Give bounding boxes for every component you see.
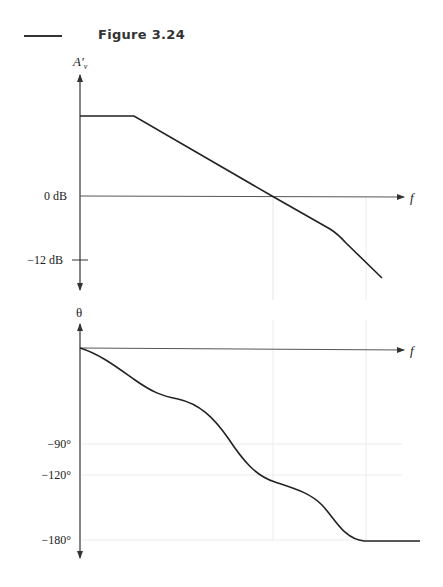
tick-label-minus90: −90°: [47, 437, 71, 451]
mag-x-axis: [80, 196, 404, 197]
tick-label-minus120: −120°: [41, 468, 71, 482]
bode-plot: A′v 0 dB −12 dB f θ −90° −120° −180° f: [0, 0, 443, 587]
phase-plot: θ −90° −120° −180° f: [41, 305, 420, 558]
mag-x-label: f: [410, 190, 416, 205]
tick-label-minus180: −180°: [41, 533, 71, 547]
tick-label-0db: 0 dB: [44, 189, 67, 203]
tick-label-minus12db: −12 dB: [27, 253, 63, 267]
mag-y-label: A′v: [72, 54, 88, 71]
phase-x-label: f: [410, 343, 416, 358]
phase-y-label: θ: [76, 305, 82, 320]
magnitude-plot: A′v 0 dB −12 dB f: [27, 54, 416, 300]
phase-x-axis: [80, 348, 404, 350]
